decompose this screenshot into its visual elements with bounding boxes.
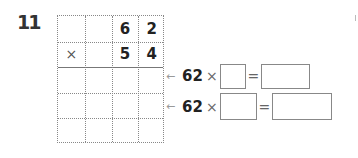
edge-mark <box>355 15 356 21</box>
answer-cell[interactable] <box>112 118 139 144</box>
answer-cell[interactable] <box>85 67 112 93</box>
answer-cell[interactable] <box>138 118 165 144</box>
equation-row-2: ← 62 × = <box>166 93 332 120</box>
answer-cell[interactable] <box>138 93 165 119</box>
answer-cell[interactable] <box>85 118 112 144</box>
grid-cell[interactable] <box>85 42 112 68</box>
factor-input-box[interactable] <box>220 93 257 120</box>
multiplication-grid: 6 2 × 5 4 <box>57 15 164 143</box>
answer-cell[interactable] <box>112 67 139 93</box>
left-arrow-icon: ← <box>166 100 182 113</box>
answer-cell[interactable] <box>58 67 85 93</box>
grid-cell: 2 <box>138 16 165 42</box>
times-sign: × <box>206 68 218 84</box>
answer-cell[interactable] <box>58 93 85 119</box>
grid-cell[interactable] <box>58 16 85 42</box>
result-input-box[interactable] <box>272 93 332 120</box>
left-arrow-icon: ← <box>166 70 182 83</box>
answer-cell[interactable] <box>112 93 139 119</box>
factor-input-box[interactable] <box>220 64 246 89</box>
grid-cell: 6 <box>112 16 139 42</box>
answer-cell[interactable] <box>138 67 165 93</box>
grid-cell: 4 <box>138 42 165 68</box>
multiplicand: 62 <box>182 98 203 116</box>
times-sign: × <box>58 42 85 68</box>
answer-cell[interactable] <box>58 118 85 144</box>
multiplicand: 62 <box>182 67 203 85</box>
answer-cell[interactable] <box>85 93 112 119</box>
result-input-box[interactable] <box>261 64 310 89</box>
grid-cell: 5 <box>112 42 139 68</box>
equals-sign: = <box>248 68 260 84</box>
question-number: 11 <box>17 11 39 33</box>
equation-row-1: ← 62 × = <box>166 63 310 89</box>
grid-cell[interactable] <box>85 16 112 42</box>
times-sign: × <box>206 99 218 115</box>
equals-sign: = <box>259 99 271 115</box>
